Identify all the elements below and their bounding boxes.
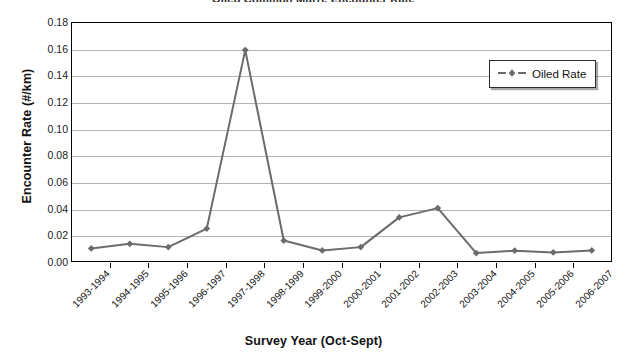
data-point-marker: [280, 237, 287, 244]
x-axis-tick-label: 1999-2000: [302, 268, 344, 310]
y-axis-tick-label: 0.08: [36, 149, 68, 161]
legend-line-diamond-icon: [497, 65, 527, 83]
y-axis-tick-label: 0.16: [36, 43, 68, 55]
x-axis-tick-label: 2005-2006: [534, 268, 576, 310]
chart-container: Oiled Common Murre Encounter Rate Encoun…: [0, 0, 627, 358]
y-axis-tick-label: 0.06: [36, 176, 68, 188]
x-axis-tick-label: 2006-2007: [573, 268, 615, 310]
chart-title: Oiled Common Murre Encounter Rate: [0, 0, 627, 2]
x-axis-tick-label: 1997-1998: [225, 268, 267, 310]
x-axis-tick-label: 2002-2003: [418, 268, 460, 310]
series-plot: [72, 23, 611, 261]
y-axis-tick-label: 0.10: [36, 123, 68, 135]
data-point-marker: [550, 249, 557, 256]
x-axis-tick-labels: 1993-19941994-19951995-19961996-19971997…: [71, 268, 612, 330]
data-point-marker: [165, 244, 172, 251]
x-axis-tick-label: 2003-2004: [457, 268, 499, 310]
y-axis-tick-label: 0.12: [36, 96, 68, 108]
x-axis-tick-label: 1994-1995: [109, 268, 151, 310]
y-axis-tick-label: 0.18: [36, 16, 68, 28]
data-point-marker: [242, 47, 249, 54]
data-point-marker: [588, 247, 595, 254]
x-axis-tick-label: 1993-1994: [70, 268, 112, 310]
y-axis-tick-label: 0.00: [36, 256, 68, 268]
data-point-marker: [88, 245, 95, 252]
y-axis-title: Encounter Rate (#/km): [20, 16, 34, 256]
x-axis-tick-label: 2004-2005: [496, 268, 538, 310]
x-axis-tick-label: 2001-2002: [380, 268, 422, 310]
data-point-marker: [203, 225, 210, 232]
legend-label-oiled-rate: Oiled Rate: [532, 68, 586, 80]
data-point-marker: [126, 240, 133, 247]
x-axis-tick-label: 1998-1999: [264, 268, 306, 310]
x-axis-tick-label: 1995-1996: [148, 268, 190, 310]
y-axis-tick-labels: 0.000.020.040.060.080.100.120.140.160.18: [36, 22, 68, 262]
legend: Oiled Rate: [489, 60, 596, 88]
x-axis-title: Survey Year (Oct-Sept): [0, 334, 627, 348]
plot-area: [71, 22, 612, 262]
x-axis-tick-label: 1996-1997: [186, 268, 228, 310]
y-axis-tick-label: 0.04: [36, 203, 68, 215]
data-point-marker: [511, 247, 518, 254]
data-point-marker: [319, 247, 326, 254]
y-axis-tick-label: 0.14: [36, 69, 68, 81]
y-axis-tick-label: 0.02: [36, 229, 68, 241]
x-axis-tick-label: 2000-2001: [341, 268, 383, 310]
